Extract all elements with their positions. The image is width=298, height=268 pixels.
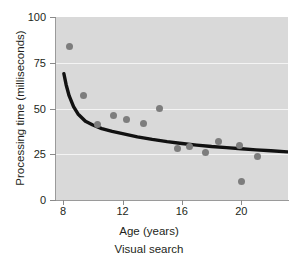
data-point: [202, 149, 209, 156]
y-tick-mark: [50, 154, 56, 155]
data-point: [66, 43, 73, 50]
x-axis-line: [55, 200, 289, 201]
x-tick-label: 16: [162, 205, 202, 217]
x-axis-title: Age (years): [0, 225, 298, 237]
plot-area: [55, 17, 288, 200]
x-tick-label: 20: [221, 205, 261, 217]
fit-curve: [55, 17, 288, 200]
data-point: [236, 142, 243, 149]
y-tick-mark: [50, 17, 56, 18]
x-tick-label: 12: [103, 205, 143, 217]
y-tick-mark: [50, 200, 56, 201]
y-axis-title: Processing time (milliseconds): [14, 8, 26, 208]
chart-caption: Visual search: [0, 243, 298, 255]
y-tick-mark: [50, 63, 56, 64]
y-tick-mark: [50, 109, 56, 110]
visual-search-scatter-chart: 0255075100 8121620 Processing time (mill…: [0, 0, 298, 268]
data-point: [238, 178, 245, 185]
x-tick-label: 8: [43, 205, 83, 217]
data-point: [254, 153, 261, 160]
data-point: [140, 120, 147, 127]
